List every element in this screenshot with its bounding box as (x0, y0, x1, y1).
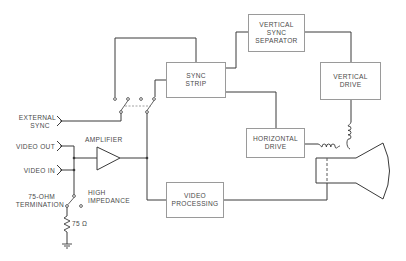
horizontal-drive-block: HORIZONTAL DRIVE (246, 128, 305, 158)
vdrive-label-1: VERTICAL (333, 73, 368, 81)
sync-strip-block: SYNC STRIP (166, 62, 226, 98)
external-sync-label: EXTERNAL SYNC (14, 114, 56, 130)
wire-video-processing-to-crt (224, 183, 327, 200)
resistor-icon (64, 216, 70, 232)
vdrive-label-2: DRIVE (340, 81, 362, 89)
sync-strip-label-2: STRIP (186, 80, 207, 88)
high-impedance-label-1: HIGH (88, 189, 130, 197)
junction-dot-icon (73, 157, 76, 160)
wire-switch2-to-sync-strip (155, 80, 166, 97)
vertical-deflection-coil-icon (347, 122, 351, 149)
junction-dot-icon (146, 157, 149, 160)
vproc-label-1: VIDEO (184, 192, 206, 200)
video-monitor-block-diagram (0, 0, 406, 261)
termination-label-2: TERMINATION (12, 201, 64, 209)
external-sync-label-2: SYNC (14, 122, 56, 130)
vsep-label-1: VERTICAL (259, 21, 294, 29)
high-impedance-label: HIGH IMPEDANCE (88, 189, 130, 205)
amplifier-label: AMPLIFIER (85, 136, 123, 144)
amplifier-icon (97, 147, 120, 170)
wire-to-video-processing (147, 158, 166, 200)
termination-label-1: 75-OHM (12, 193, 64, 201)
video-out-label: VIDEO OUT (10, 143, 55, 151)
wire-external-sync (60, 113, 121, 121)
wire-video-out (60, 146, 74, 158)
video-in-label: VIDEO IN (10, 167, 55, 175)
resistor-value-label: 75 Ω (72, 220, 87, 228)
vertical-drive-block: VERTICAL DRIVE (320, 62, 381, 100)
vertical-sync-separator-block: VERTICAL SYNC SEPARATOR (248, 14, 305, 52)
vproc-label-2: PROCESSING (172, 200, 219, 208)
horizontal-deflection-coil-icon (318, 144, 340, 148)
vsep-label-2: SYNC (267, 29, 287, 37)
junction-dot-icon (73, 169, 76, 172)
sync-strip-label-1: SYNC (186, 72, 206, 80)
external-sync-label-1: EXTERNAL (14, 114, 56, 122)
ground-icon (62, 244, 72, 248)
high-impedance-label-2: IMPEDANCE (88, 197, 130, 205)
termination-label: 75-OHM TERMINATION (12, 193, 64, 209)
hdrive-label-2: DRIVE (265, 143, 287, 151)
video-processing-block: VIDEO PROCESSING (166, 182, 224, 218)
vsep-label-3: SEPARATOR (255, 37, 297, 45)
sync-selector-switch[interactable] (114, 98, 156, 114)
hdrive-label-1: HORIZONTAL (253, 135, 298, 143)
wire-sync-strip-to-vsep (226, 32, 248, 68)
wire-sync-strip-to-hdrive (226, 92, 276, 130)
termination-switch[interactable] (66, 195, 83, 208)
wire-vsep-to-vdrive (305, 32, 351, 62)
